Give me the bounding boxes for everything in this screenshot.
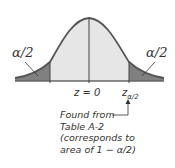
annotation-line: Table A-2 — [60, 121, 136, 133]
table-annotation: Found from Table A-2 (corresponds to are… — [60, 109, 136, 155]
critical-z-subscript: α/2 — [127, 93, 138, 101]
annotation-line: area of 1 − α/2) — [60, 144, 136, 156]
left-tail-label: α/2 — [12, 45, 33, 60]
normal-distribution-diagram: α/2 α/2 z = 0 zα/2 Found from Table A-2 … — [0, 0, 175, 168]
right-tail-label: α/2 — [146, 45, 167, 60]
center-z-label: z = 0 — [74, 87, 100, 98]
annotation-line: Found from — [60, 109, 136, 121]
critical-z-label: zα/2 — [122, 87, 139, 101]
annotation-line: (corresponds to — [60, 132, 136, 144]
left-tail-region — [15, 62, 50, 81]
